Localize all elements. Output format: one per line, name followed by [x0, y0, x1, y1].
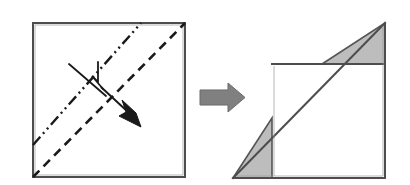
origami-diagram-svg	[0, 0, 410, 185]
block-arrow-right-icon	[200, 83, 245, 112]
origami-diagram-root	[0, 0, 410, 185]
after-panel	[233, 23, 385, 178]
top-shaded-flap	[322, 23, 385, 64]
bottom-shaded-flap	[233, 118, 272, 178]
transition-arrow	[200, 83, 245, 112]
before-panel	[33, 23, 185, 177]
